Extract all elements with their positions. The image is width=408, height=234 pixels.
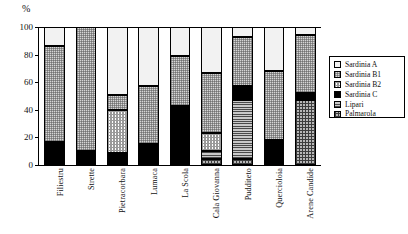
bar-segment-filiestru-sardinia-a <box>44 27 65 46</box>
legend-item-palmarola[interactable]: Palmarola <box>334 109 401 119</box>
bar-segment-lumaca-sardinia-a <box>138 27 159 86</box>
bar-segment-cala-giovanna-palmarola <box>201 159 222 165</box>
bar-segment-pietracorbara-sardinia-c <box>107 153 128 165</box>
bar-segment-pudditeto-sardinia-b1 <box>232 37 253 87</box>
legend-item-label: Sardinia C <box>345 91 377 99</box>
legend-item-lipari[interactable]: Lipari <box>334 100 401 110</box>
bar-filiestru <box>44 27 65 165</box>
y-axis-tick <box>35 165 39 166</box>
bar-segment-arene-candide-palmarola <box>295 100 316 165</box>
bar-quercioloia <box>264 27 285 165</box>
x-axis-label-pudditeto: Pudditeto <box>245 168 253 200</box>
bar-segment-pietracorbara-sardinia-a <box>107 27 128 95</box>
x-axis-label-strette: Strette <box>88 168 96 190</box>
bar-segment-pudditeto-sardinia-a <box>232 27 253 37</box>
legend-item-label: Sardinia B1 <box>345 71 381 79</box>
x-axis-label-filiestru: Filiestru <box>57 168 65 196</box>
legend-item-sardinia-b1[interactable]: Sardinia B1 <box>334 70 401 80</box>
legend-item-sardinia-c[interactable]: Sardinia C <box>334 90 401 100</box>
bar-pietracorbara <box>107 27 128 165</box>
x-axis-label-arene-candide: Arene Candide <box>307 168 315 219</box>
bar-segment-arene-candide-sardinia-c <box>295 93 316 100</box>
bar-segment-quercioloia-sardinia-a <box>264 27 285 71</box>
bar-segment-strette-sardinia-c <box>76 151 97 165</box>
bar-segment-la-scola-sardinia-c <box>170 106 191 165</box>
bar-segment-pudditeto-lipari <box>232 100 253 159</box>
bar-segment-pudditeto-sardinia-c <box>232 86 253 100</box>
y-axis-tick-label: 20 <box>24 133 33 142</box>
legend-item-sardinia-a[interactable]: Sardinia A <box>334 60 401 70</box>
bar-segment-lumaca-sardinia-c <box>138 144 159 165</box>
bar-segment-quercioloia-sardinia-b1 <box>264 71 285 140</box>
chart-legend: Sardinia ASardinia B1Sardinia B2Sardinia… <box>329 56 405 118</box>
bar-segment-quercioloia-sardinia-c <box>264 140 285 165</box>
swatch-sardinia-c-icon <box>334 91 341 98</box>
x-axis-labels: FiliestruStrettePietracorbaraLumacaLa Sc… <box>38 168 320 232</box>
legend-item-label: Sardinia B2 <box>345 81 381 89</box>
bar-segment-filiestru-sardinia-b1 <box>44 46 65 141</box>
bar-la-scola <box>170 27 191 165</box>
swatch-palmarola-icon <box>334 111 341 118</box>
swatch-sardinia-b1-icon <box>334 71 341 78</box>
bar-group <box>39 27 321 165</box>
swatch-sardinia-b2-icon <box>334 81 341 88</box>
bar-segment-filiestru-sardinia-c <box>44 144 65 165</box>
bar-segment-lumaca-sardinia-b1 <box>138 86 159 144</box>
legend-item-sardinia-b2[interactable]: Sardinia B2 <box>334 80 401 90</box>
bar-segment-cala-giovanna-sardinia-b2 <box>201 133 222 151</box>
y-axis-tick-label: 100 <box>20 23 34 32</box>
x-axis-label-la-scola: La Scola <box>182 168 190 198</box>
bar-lumaca <box>138 27 159 165</box>
swatch-sardinia-a-icon <box>334 61 341 68</box>
bar-segment-pietracorbara-sardinia-b1 <box>107 95 128 110</box>
plot-area: 020406080100 <box>38 27 321 166</box>
bar-segment-strette-sardinia-b1 <box>76 27 97 151</box>
x-axis-label-quercioloia: Quercioloia <box>276 168 284 208</box>
bar-segment-cala-giovanna-sardinia-a <box>201 27 222 73</box>
x-axis-label-lumaca: Lumaca <box>151 168 159 195</box>
x-axis-label-pietracorbara: Pietracorbara <box>119 168 127 213</box>
y-axis-tick-label: 60 <box>24 78 33 87</box>
y-axis-tick-label: 80 <box>24 50 33 59</box>
bar-pudditeto <box>232 27 253 165</box>
swatch-lipari-icon <box>334 101 341 108</box>
bar-strette <box>76 27 97 165</box>
legend-item-label: Lipari <box>345 101 364 109</box>
bar-segment-la-scola-sardinia-a <box>170 27 191 56</box>
bar-segment-pietracorbara-sardinia-b2 <box>107 110 128 153</box>
bar-segment-cala-giovanna-sardinia-b1 <box>201 73 222 134</box>
y-axis-unit-label: % <box>22 3 30 14</box>
bar-segment-arene-candide-sardinia-a <box>295 27 316 35</box>
bar-segment-la-scola-sardinia-b1 <box>170 56 191 106</box>
bar-arene-candide <box>295 27 316 165</box>
legend-item-label: Sardinia A <box>345 61 377 69</box>
chart-figure: % 020406080100 FiliestruStrettePietracor… <box>0 0 408 234</box>
bar-segment-cala-giovanna-lipari <box>201 151 222 159</box>
bar-cala-giovanna <box>201 27 222 165</box>
bar-segment-filiestru-sardinia-b2 <box>44 142 65 145</box>
bar-segment-arene-candide-sardinia-b1 <box>295 35 316 93</box>
legend-item-label: Palmarola <box>345 110 376 118</box>
x-axis-label-cala-giovanna: Cala Giovanna <box>213 168 221 218</box>
y-axis-tick-label: 0 <box>29 161 34 170</box>
bar-segment-pudditeto-palmarola <box>232 159 253 165</box>
y-axis-tick-label: 40 <box>24 105 33 114</box>
